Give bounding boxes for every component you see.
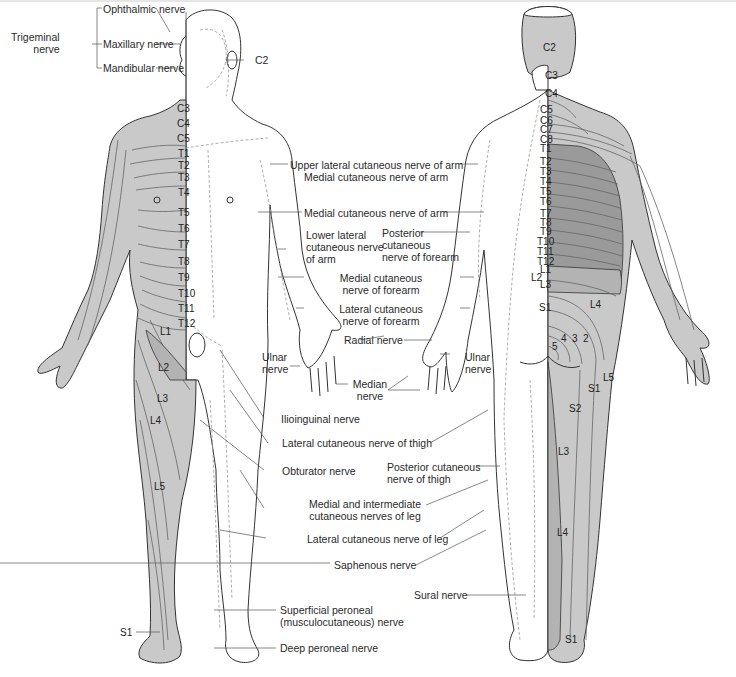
trigeminal-nerve-label: Trigeminal nerve [11,31,60,55]
posterior-thigh-line2: nerve of thigh [387,473,480,485]
segment-t3: T3 [178,172,190,183]
segment-t10: T10 [178,288,195,299]
segment-s2-back: S2 [569,403,581,414]
segment-t7: T7 [178,239,190,250]
segment-l1-front: L1 [160,326,171,337]
segment-t5: T5 [178,207,190,218]
median-line2: nerve [350,390,390,402]
lateral-cutaneous-nerve-of-thigh-label: Lateral cutaneous nerve of thigh [282,437,432,449]
lateral-forearm-line1: Lateral cutaneous [306,303,456,315]
segment-c2-back: C2 [543,42,556,53]
superficial-peroneal-nerve-label: Superficial peroneal (musculocutaneous) … [280,604,404,628]
ulnar-back-line2: nerve [465,363,491,375]
lateral-cutaneous-nerve-of-leg-label: Lateral cutaneous nerve of leg [307,533,448,545]
segment-l5-back: L5 [603,372,614,383]
segment-c4-back: C4 [545,88,558,99]
medial-forearm-line2: nerve of forearm [306,284,456,296]
segment-c3-back: C3 [545,70,558,81]
segment-t2: T2 [178,160,190,171]
posterior-cutaneous-nerve-of-forearm-label: Posterior cutaneous nerve of forearm [382,227,459,263]
segment-s4-back: 4 [561,333,567,344]
medial-cutaneous-nerve-of-arm-label-1: Medial cutaneous nerve of arm [304,171,448,183]
segment-s5-back: 5 [552,341,558,352]
saphenous-nerve-label: Saphenous nerve [334,559,416,571]
segment-t9: T9 [178,272,190,283]
posterior-thigh-line1: Posterior cutaneous [387,461,480,473]
median-line1: Median [350,378,390,390]
lower-lateral-line3: of arm [306,253,384,265]
mandibular-nerve-label: Mandibular nerve [103,62,184,74]
lateral-cutaneous-nerve-of-forearm-label: Lateral cutaneous nerve of forearm [306,303,456,327]
segment-l3-front: L3 [157,393,168,404]
ophthalmic-nerve-label: Ophthalmic nerve [103,3,185,15]
lower-lateral-line2: cutaneous nerve [306,241,384,253]
posterior-cutaneous-nerve-of-thigh-label: Posterior cutaneous nerve of thigh [387,461,480,485]
segment-s3-back: 3 [572,333,578,344]
medial-cutaneous-nerve-of-arm-label-2: Medial cutaneous nerve of arm [304,207,448,219]
c2-label-front: C2 [255,54,268,66]
maxillary-nerve-label: Maxillary nerve [103,38,174,50]
segment-s1-back-lower: S1 [588,383,600,394]
posterior-forearm-line1: Posterior [382,227,459,239]
segment-t6-back: T6 [540,196,552,207]
segment-l2-front: L2 [158,362,169,373]
segment-l4-back-upper: L4 [590,299,601,310]
ulnar-back-line1: Ulnar [465,351,491,363]
segment-l4-back-leg: L4 [557,527,568,538]
superficial-peroneal-line2: (musculocutaneous) nerve [280,616,404,628]
superficial-peroneal-line1: Superficial peroneal [280,604,404,616]
radial-nerve-label: Radial nerve [344,334,403,346]
sural-nerve-label: Sural nerve [414,589,468,601]
segment-t12: T12 [178,318,195,329]
segment-t11: T11 [178,303,195,314]
segment-t1-back: T1 [540,143,552,154]
segment-l3-back-leg: L3 [558,446,569,457]
ilioinguinal-nerve-label: Ilioinguinal nerve [281,413,360,425]
segment-l3-back: L3 [540,279,551,290]
ulnar-front-line2: nerve [262,363,288,375]
lateral-forearm-line2: nerve of forearm [306,315,456,327]
ulnar-nerve-back-label: Ulnar nerve [465,351,491,375]
lower-lateral-line1: Lower lateral [306,229,384,241]
trigeminal-line1: Trigeminal [11,31,60,43]
lower-lateral-cutaneous-nerve-of-arm-label: Lower lateral cutaneous nerve of arm [306,229,384,265]
trigeminal-line2: nerve [11,43,60,55]
segment-l5-front: L5 [154,481,165,492]
segment-s1-back-upper: S1 [539,302,551,313]
segment-t6: T6 [178,223,190,234]
medial-intermediate-line1: Medial and intermediate [300,498,430,510]
segment-t4: T4 [178,187,190,198]
ulnar-front-line1: Ulnar [262,351,288,363]
deep-peroneal-nerve-label: Deep peroneal nerve [280,642,378,654]
segment-s1-back-heel: S1 [565,634,577,645]
segment-s1-front: S1 [120,627,132,638]
segment-s2-back-arc: 2 [583,333,589,344]
medial-intermediate-line2: cutaneous nerves of leg [300,510,430,522]
posterior-forearm-line3: nerve of forearm [382,251,459,263]
segment-c4: C4 [177,118,190,129]
segment-t1: T1 [178,148,190,159]
medial-forearm-line1: Medial cutaneous [306,272,456,284]
medial-cutaneous-nerve-of-forearm-label: Medial cutaneous nerve of forearm [306,272,456,296]
ulnar-nerve-front-label: Ulnar nerve [262,351,288,375]
segment-c5-back: C5 [540,104,553,115]
obturator-nerve-label: Obturator nerve [282,465,356,477]
segment-t8: T8 [178,256,190,267]
medial-intermediate-cutaneous-nerves-of-leg-label: Medial and intermediate cutaneous nerves… [300,498,430,522]
upper-lateral-cutaneous-nerve-of-arm-label: Upper lateral cutaneous nerve of arm [290,159,463,171]
median-nerve-label: Median nerve [350,378,390,402]
posterior-forearm-line2: cutaneous [382,239,459,251]
segment-c5: C5 [177,133,190,144]
segment-c3: C3 [177,103,190,114]
segment-l4-front: L4 [150,415,161,426]
